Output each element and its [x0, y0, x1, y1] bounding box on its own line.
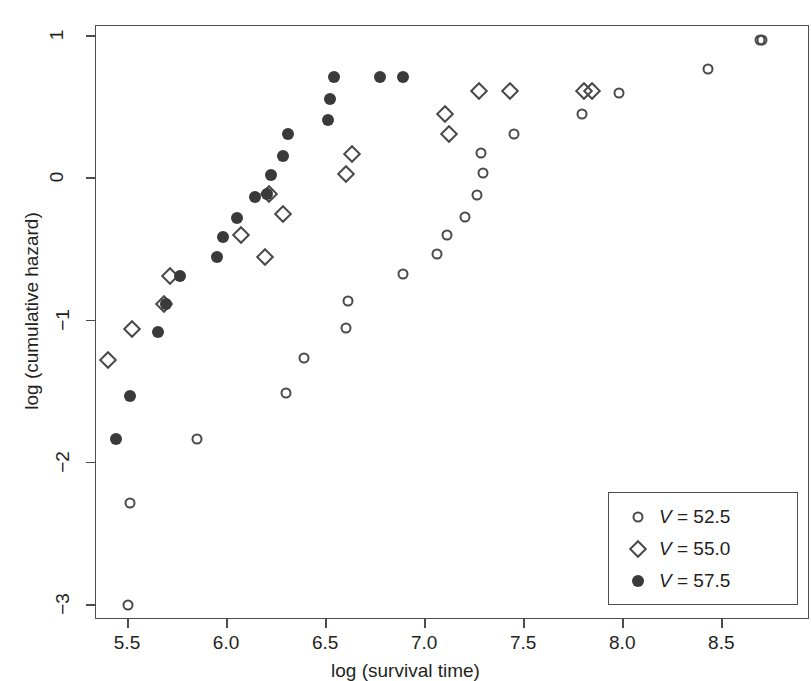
- y-tick-label: 1: [46, 30, 68, 41]
- y-tick-mark: [86, 604, 95, 606]
- data-point: [322, 114, 334, 126]
- x-tick-label: 6.0: [213, 632, 239, 654]
- data-point: [261, 188, 273, 200]
- data-point: [501, 82, 519, 100]
- data-point: [471, 190, 482, 201]
- data-point: [509, 129, 520, 140]
- legend-item: V = 57.5: [609, 565, 797, 597]
- legend-label: V = 55.0: [659, 538, 730, 560]
- data-point: [211, 251, 223, 263]
- data-point: [477, 167, 488, 178]
- y-tick-mark: [86, 320, 95, 322]
- data-point: [273, 205, 291, 223]
- data-point: [265, 169, 277, 181]
- data-point: [328, 71, 340, 83]
- data-point: [249, 191, 261, 203]
- data-point: [99, 351, 117, 369]
- data-point: [160, 298, 172, 310]
- data-point: [614, 87, 625, 98]
- x-tick-mark: [622, 619, 624, 628]
- data-point: [255, 247, 273, 265]
- x-tick-mark: [523, 619, 525, 628]
- legend-marker-glyph: [633, 512, 644, 523]
- data-point: [441, 230, 452, 241]
- data-point: [440, 125, 458, 143]
- y-tick-label: 0: [46, 172, 68, 183]
- data-point: [324, 93, 336, 105]
- legend-label: V = 52.5: [659, 506, 730, 528]
- x-tick-label: 7.5: [510, 632, 536, 654]
- data-point: [459, 211, 470, 222]
- y-tick-mark: [86, 177, 95, 179]
- data-point: [232, 226, 250, 244]
- legend-marker-glyph: [632, 575, 644, 587]
- data-point: [576, 109, 587, 120]
- legend-marker-open-circle-icon: [627, 506, 649, 528]
- y-tick-label: −2: [52, 451, 74, 473]
- x-tick-label: 7.0: [411, 632, 437, 654]
- data-point: [342, 295, 353, 306]
- x-tick-label: 8.5: [708, 632, 734, 654]
- data-point: [123, 600, 134, 611]
- x-tick-label: 6.5: [312, 632, 338, 654]
- data-point: [231, 212, 243, 224]
- legend-marker-open-diamond-icon: [627, 538, 649, 560]
- data-point: [436, 105, 454, 123]
- x-tick-mark: [325, 619, 327, 628]
- data-point: [174, 270, 186, 282]
- y-tick-mark: [86, 462, 95, 464]
- legend-marker-glyph: [629, 540, 647, 558]
- legend-marker-filled-circle-icon: [627, 570, 649, 592]
- data-point: [282, 128, 294, 140]
- x-tick-mark: [127, 619, 129, 628]
- data-point: [475, 147, 486, 158]
- data-point: [469, 82, 487, 100]
- data-point: [397, 71, 409, 83]
- y-tick-label: −1: [52, 309, 74, 331]
- data-point: [299, 352, 310, 363]
- data-point: [703, 63, 714, 74]
- y-tick-label: −3: [52, 593, 74, 615]
- x-tick-mark: [424, 619, 426, 628]
- data-point: [217, 231, 229, 243]
- y-tick-mark: [86, 35, 95, 37]
- legend: V = 52.5V = 55.0V = 57.5: [608, 492, 798, 605]
- x-tick-mark: [226, 619, 228, 628]
- data-point: [343, 145, 361, 163]
- data-point: [756, 35, 767, 46]
- data-point: [152, 326, 164, 338]
- data-point: [277, 150, 289, 162]
- data-point: [123, 320, 141, 338]
- x-tick-mark: [721, 619, 723, 628]
- x-tick-label: 5.5: [114, 632, 140, 654]
- data-point: [340, 322, 351, 333]
- data-point: [110, 433, 122, 445]
- scatter-plot-figure: log (cumulative hazard) 10−1−2−3 5.56.06…: [0, 0, 811, 681]
- data-point: [398, 268, 409, 279]
- data-point: [374, 71, 386, 83]
- data-point: [281, 388, 292, 399]
- data-point: [124, 497, 135, 508]
- legend-item: V = 55.0: [609, 533, 797, 565]
- data-point: [432, 248, 443, 259]
- data-point: [337, 165, 355, 183]
- data-point: [192, 433, 203, 444]
- y-axis-title: log (cumulative hazard): [21, 161, 43, 461]
- x-axis-title: log (survival time): [0, 660, 811, 681]
- legend-item: V = 52.5: [609, 501, 797, 533]
- legend-label: V = 57.5: [659, 570, 730, 592]
- x-tick-label: 8.0: [609, 632, 635, 654]
- data-point: [124, 390, 136, 402]
